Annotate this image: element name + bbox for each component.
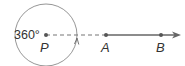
label-p: P [40, 40, 49, 55]
ray-rotation-diagram: 360° P A B [0, 0, 185, 66]
label-a: A [100, 40, 110, 55]
point-p [44, 33, 48, 37]
label-b: B [156, 40, 165, 55]
point-b [159, 33, 163, 37]
angle-label: 360° [14, 28, 40, 42]
point-a [104, 33, 108, 37]
